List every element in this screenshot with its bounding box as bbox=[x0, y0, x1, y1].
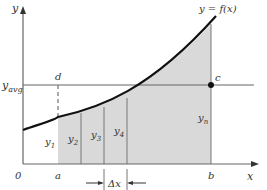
delta-x-label: Δx bbox=[107, 178, 121, 189]
arrow-right-icon bbox=[98, 181, 104, 185]
function-label: y = f(x) bbox=[198, 3, 237, 14]
point-c-dot bbox=[208, 82, 214, 88]
strip-label-1: y1 bbox=[44, 136, 55, 150]
x-axis-arrow-icon bbox=[251, 161, 259, 167]
x-b-label: b bbox=[208, 170, 214, 181]
y-axis-arrow-icon bbox=[20, 6, 26, 14]
x-axis-label: x bbox=[247, 170, 254, 183]
point-c-label: c bbox=[215, 72, 221, 83]
arrow-left-icon bbox=[127, 181, 133, 185]
x-a-label: a bbox=[55, 170, 61, 181]
point-d-label: d bbox=[55, 71, 61, 82]
y-avg-label: yavg bbox=[1, 79, 23, 94]
origin-label: 0 bbox=[15, 170, 22, 181]
average-value-diagram: y = f(x) y x 0 yavg d c a b y1 y2 y3 y4 … bbox=[0, 0, 267, 190]
y-axis-label: y bbox=[11, 2, 19, 15]
